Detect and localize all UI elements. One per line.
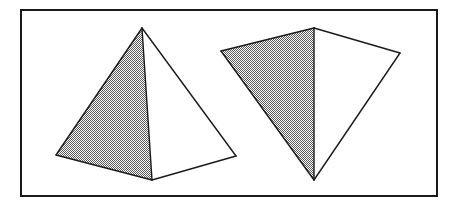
figure-root [0,0,456,207]
figure-canvas [0,0,456,207]
figure-background [0,0,456,207]
